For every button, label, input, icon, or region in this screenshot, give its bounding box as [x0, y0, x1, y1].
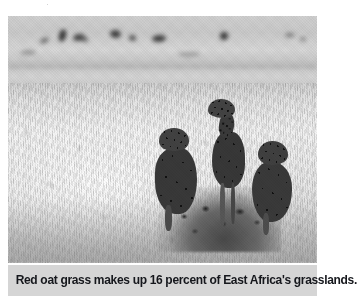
- clipped-text-remnant: ·: [0, 0, 328, 7]
- caption-band: Red oat grass makes up 16 percent of Eas…: [8, 265, 317, 296]
- cheetah-spots: [258, 141, 288, 165]
- cheetah-leg: [165, 205, 172, 231]
- distant-haze-streak: [178, 52, 200, 57]
- cheetah-leg: [220, 183, 225, 226]
- cheetah-right: [249, 141, 295, 232]
- distant-animal-blob: [40, 37, 50, 45]
- distant-haze-streak: [20, 50, 36, 55]
- cheetah-group: [153, 93, 298, 256]
- distant-animal-blob: [151, 34, 165, 42]
- cheetah-spots: [155, 148, 196, 215]
- figure: Red oat grass makes up 16 percent of Eas…: [8, 16, 317, 296]
- distant-animal-blob: [285, 33, 294, 37]
- cheetah-spots: [212, 132, 244, 188]
- cheetah-spots: [252, 162, 292, 222]
- distant-animal-blob: [58, 28, 68, 42]
- photograph: [8, 16, 317, 263]
- cheetah-body: [252, 162, 292, 222]
- cheetah-body: [212, 132, 244, 188]
- cheetah-left: [153, 128, 202, 229]
- distant-animals-group: [8, 16, 317, 90]
- cheetah-leg: [231, 183, 235, 224]
- cheetah-head: [258, 141, 288, 165]
- distant-animal-blob: [300, 37, 306, 41]
- distant-animal-blob: [220, 32, 228, 40]
- distant-animal-blob: [82, 37, 88, 42]
- caption-text: Red oat grass makes up 16 percent of Eas…: [8, 274, 361, 287]
- cheetah-head: [159, 128, 189, 150]
- cheetah-standing: [205, 99, 249, 226]
- cheetah-spots: [208, 99, 235, 118]
- cheetah-head: [208, 99, 235, 118]
- distant-animal-blob: [109, 29, 121, 38]
- distant-animal-blob: [129, 35, 136, 41]
- cheetah-leg: [263, 213, 269, 235]
- cheetah-body: [155, 148, 196, 215]
- cheetah-spots: [159, 128, 189, 150]
